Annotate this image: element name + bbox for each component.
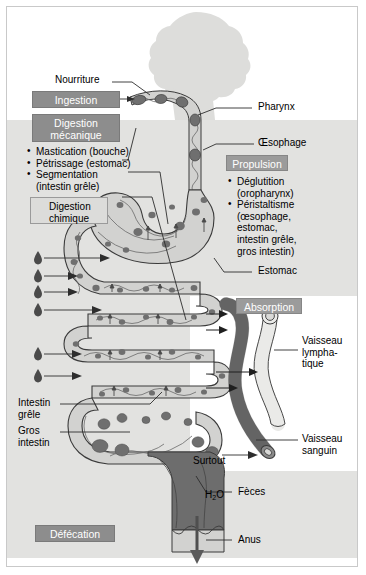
propulsion-list: Déglutition (oropharynx) Péristaltisme (…: [228, 176, 314, 257]
stage-absorption[interactable]: Absorption: [236, 298, 302, 314]
droplet-icon: [34, 303, 42, 316]
stage-digestion-mecanique[interactable]: Digestion mécanique: [32, 114, 120, 142]
mechanical-digestion-list: Mastication (bouche) Pétrissage (estomac…: [27, 146, 147, 192]
stage-defecation[interactable]: Défécation: [35, 525, 115, 542]
droplet-icon: [34, 285, 42, 298]
list-item: Déglutition: [228, 176, 314, 188]
lymphatic-vessel: [254, 308, 285, 427]
droplet-icon: [34, 269, 42, 282]
list-item: Mastication (bouche): [27, 146, 147, 158]
list-item: Segmentation: [27, 169, 147, 181]
label-intestin-grele: Intestin grêle: [18, 397, 50, 420]
label-oesophage: Œsophage: [258, 137, 306, 149]
stage-ingestion[interactable]: Ingestion: [32, 91, 120, 108]
label-vaisseau-lymphatique: Vaisseau lympha- tique: [302, 335, 342, 370]
list-item-continuation: (oropharynx): [228, 188, 314, 200]
figure-canvas: Nourriture Ingestion Digestion mécanique…: [0, 0, 366, 575]
droplet-icon: [34, 369, 42, 382]
list-item: Pétrissage (estomac): [27, 158, 147, 170]
head-silhouette-icon: [149, 12, 251, 120]
stage-digestion-chimique[interactable]: Digestion chimique: [30, 197, 108, 224]
list-item: Péristaltisme: [228, 199, 314, 211]
digestive-system-artwork: [0, 0, 366, 575]
label-pharynx: Pharynx: [258, 101, 295, 113]
label-nourriture: Nourriture: [55, 74, 99, 86]
droplet-icon: [34, 347, 42, 360]
label-anus: Anus: [238, 534, 261, 546]
stage-label: Digestion chimique: [49, 201, 91, 224]
label-estomac: Estomac: [258, 265, 297, 277]
droplet-icon: [34, 251, 42, 264]
droplet-icons: [34, 251, 42, 382]
label-vaisseau-sanguin: Vaisseau sanguin: [302, 433, 342, 456]
stage-propulsion[interactable]: Propulsion: [226, 155, 288, 171]
list-item-continuation: (intestin grêle): [27, 181, 147, 193]
stomach: [90, 190, 214, 264]
label-feces: Fèces: [238, 486, 265, 498]
annotation-line1: Surtout: [193, 455, 225, 466]
annotation-o: O: [216, 489, 224, 500]
annotation-surtout-h2o: Surtout H2O: [193, 443, 225, 504]
label-gros-intestin: Gros intestin: [18, 425, 50, 448]
list-item-continuation: (œsophage, estomac, intestin grêle, gros…: [228, 211, 314, 257]
